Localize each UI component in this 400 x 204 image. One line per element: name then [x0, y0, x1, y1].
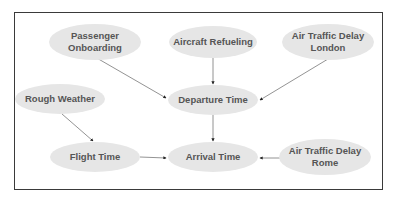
- node-label-line: Flight Time: [70, 151, 121, 162]
- node-refuel: Aircraft Refueling: [169, 26, 257, 58]
- edge-flight-to-arrival: [140, 157, 166, 158]
- node-label-line: Rome: [312, 157, 338, 168]
- node-departure: Departure Time: [168, 85, 258, 115]
- edge-atd_london-to-departure: [260, 59, 328, 100]
- node-atd-london: Air Traffic DelayLondon: [282, 24, 374, 60]
- node-label: PassengerOnboarding: [68, 30, 122, 54]
- node-label-line: Air Traffic Delay: [289, 145, 361, 156]
- edge-weather-to-flight: [62, 114, 93, 141]
- node-label-line: Onboarding: [68, 42, 122, 53]
- node-label-line: Arrival Time: [186, 151, 241, 162]
- node-label: Air Traffic DelayRome: [289, 145, 361, 169]
- node-weather: Rough Weather: [15, 84, 105, 114]
- node-label: Rough Weather: [25, 93, 95, 105]
- node-label-line: Rough Weather: [25, 93, 95, 104]
- node-label: Flight Time: [70, 151, 121, 163]
- node-label: Aircraft Refueling: [173, 36, 253, 48]
- node-flight: Flight Time: [50, 142, 140, 172]
- node-label: Departure Time: [178, 94, 248, 106]
- node-label-line: Passenger: [71, 30, 119, 41]
- node-atd-rome: Air Traffic DelayRome: [279, 139, 371, 175]
- node-label-line: London: [311, 42, 346, 53]
- edge-passenger-to-departure: [95, 57, 166, 98]
- node-label-line: Air Traffic Delay: [292, 30, 364, 41]
- node-label-line: Departure Time: [178, 94, 248, 105]
- node-arrival: Arrival Time: [168, 142, 258, 172]
- node-label-line: Aircraft Refueling: [173, 36, 253, 47]
- node-label: Arrival Time: [186, 151, 241, 163]
- node-passenger: PassengerOnboarding: [49, 24, 141, 60]
- node-label: Air Traffic DelayLondon: [292, 30, 364, 54]
